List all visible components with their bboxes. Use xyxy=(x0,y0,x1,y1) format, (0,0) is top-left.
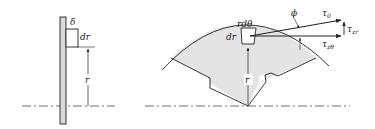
tau-ztheta-label: τzθ xyxy=(322,39,334,50)
tau0-label: τ0 xyxy=(322,8,331,19)
r-label-left: r xyxy=(85,75,90,85)
dr-label-right: dr xyxy=(226,32,237,42)
rdtheta-label: rdθ xyxy=(237,19,253,29)
phi-pointer-top xyxy=(294,18,299,28)
dr-label-left: dr xyxy=(80,32,91,42)
shaft-element-diagram: δ dr r r rdθ dr ϕ τ0 τzr τzθ xyxy=(0,0,375,129)
element-box-left xyxy=(66,29,78,47)
cross-section-view: r rdθ dr ϕ τ0 τzr τzθ xyxy=(145,8,359,106)
shaft-wall xyxy=(60,17,66,124)
phi-label: ϕ xyxy=(291,8,297,18)
delta-label: δ xyxy=(70,17,75,27)
r-label-right: r xyxy=(245,75,250,85)
side-view: δ dr r xyxy=(22,17,115,124)
tau-zr-label: τzr xyxy=(347,24,359,35)
